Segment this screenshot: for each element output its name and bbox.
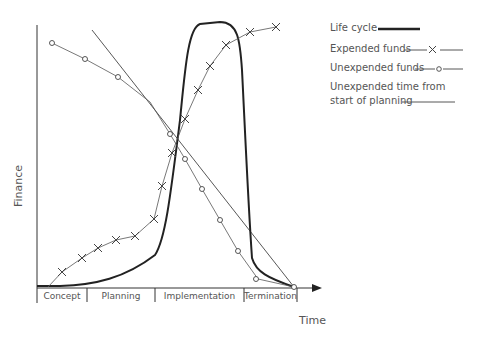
legend-unexpended-o-icon — [437, 67, 442, 72]
legend-expended-label: Expended funds — [330, 43, 411, 54]
phase-concept-label: Concept — [37, 291, 87, 301]
y-axis-label: Finance — [12, 165, 25, 207]
legend-expended-x-icon — [429, 46, 436, 53]
x-axis-label: Time — [299, 314, 326, 327]
phase-implementation-label: Implementation — [155, 291, 244, 301]
legend-unexpended-label: Unexpended funds — [330, 62, 424, 73]
unexpended-time-line — [92, 30, 294, 287]
legend-time-label-line2: start of planning — [330, 95, 413, 106]
chart-canvas — [0, 0, 496, 339]
phase-planning-label: Planning — [87, 291, 155, 301]
legend-time-label-line1: Unexpended time from — [330, 81, 445, 92]
unexpended-funds-line — [52, 43, 294, 287]
life-cycle-curve — [37, 22, 294, 287]
x-axis-arrow-icon — [312, 284, 322, 292]
phase-termination-label: Termination — [244, 291, 297, 301]
legend-life-cycle-label: Life cycle — [330, 22, 377, 33]
unexpended-funds-markers — [50, 41, 297, 290]
